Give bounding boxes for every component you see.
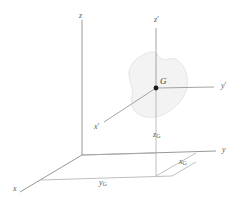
axis-label-x-text: x — [13, 184, 17, 193]
coordinate-label-y-g: yG — [99, 179, 107, 187]
axis-label-y-text: y — [222, 145, 226, 154]
axis-x-line — [20, 155, 82, 192]
axis-label-y: y — [222, 146, 226, 154]
coordinate-label-x-g: xG — [179, 158, 187, 166]
axis-label-x-prime-mark: ′ — [98, 122, 100, 131]
point-g-marker — [154, 86, 159, 91]
point-label-g: G — [160, 77, 167, 86]
diagram-canvas — [0, 0, 238, 208]
axis-label-x: x — [13, 185, 17, 193]
axis-label-z-prime: z′ — [154, 16, 159, 24]
axis-label-x-prime: x′ — [94, 123, 99, 131]
axis-label-y-prime: y′ — [221, 82, 226, 90]
coordinate-label-x-g-sub: G — [183, 160, 187, 166]
figure-3d-coordinate-diagram: z y x z′ y′ x′ G zG xG yG — [0, 0, 238, 208]
coordinate-label-y-g-sub: G — [103, 181, 107, 187]
coordinate-label-z-g: zG — [153, 131, 160, 139]
rigid-body-blob — [129, 52, 188, 118]
construction-line-ground-horizontal — [82, 153, 156, 155]
point-label-g-text: G — [160, 76, 167, 86]
axis-label-z: z — [79, 12, 82, 20]
coordinate-label-z-g-sub: G — [156, 133, 160, 139]
axis-label-y-prime-mark: ′ — [225, 81, 227, 90]
axis-label-z-prime-mark: ′ — [157, 15, 159, 24]
axis-label-z-text: z — [79, 11, 82, 20]
construction-line-ground-oblique — [156, 153, 196, 176]
